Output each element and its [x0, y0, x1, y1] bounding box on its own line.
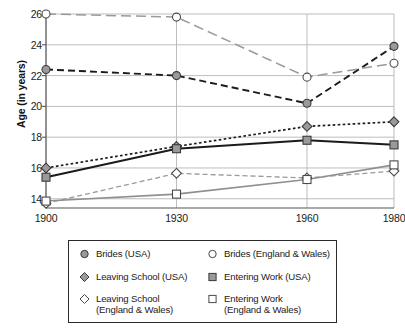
- x-tick-label: 1900: [35, 212, 58, 224]
- data-point-marker: [303, 176, 311, 184]
- data-point-marker: [42, 65, 50, 73]
- x-tick-label: 1980: [383, 212, 405, 224]
- data-point-marker: [302, 122, 312, 132]
- data-point-marker: [390, 141, 398, 149]
- series-line: [46, 46, 394, 103]
- plot-area: [0, 0, 405, 230]
- x-tick-label: 1930: [165, 212, 188, 224]
- legend-label: Leaving School (England & Wales): [96, 293, 173, 316]
- legend-item[interactable]: Entering Work (England & Wales): [207, 293, 344, 322]
- data-point-marker: [173, 13, 181, 21]
- data-point-marker: [303, 136, 311, 144]
- data-point-marker: [173, 145, 181, 153]
- legend-item[interactable]: Brides (England & Wales): [207, 248, 344, 266]
- legend-item[interactable]: Brides (USA): [79, 248, 207, 266]
- series-line: [46, 165, 394, 201]
- x-tick-label: 1960: [296, 212, 319, 224]
- data-point-marker: [42, 197, 50, 205]
- legend-item[interactable]: Entering Work (USA): [207, 271, 344, 289]
- data-point-marker: [41, 163, 51, 173]
- circle-marker-icon: [207, 248, 218, 259]
- data-point-marker: [42, 173, 50, 181]
- series-line: [46, 140, 394, 177]
- legend-item[interactable]: Leaving School (England & Wales): [79, 293, 207, 322]
- diamond-marker-icon: [79, 293, 90, 304]
- data-point-marker: [389, 117, 399, 127]
- data-point-marker: [303, 99, 311, 107]
- square-marker-icon: [207, 271, 218, 282]
- chart-legend: Brides (USA)Brides (England & Wales)Leav…: [68, 240, 337, 323]
- series-line: [46, 14, 394, 77]
- diamond-marker-icon: [79, 271, 90, 282]
- data-point-marker: [173, 190, 181, 198]
- legend-label: Brides (England & Wales): [224, 248, 330, 259]
- legend-label: Leaving School (USA): [96, 271, 187, 282]
- legend-label: Brides (USA): [96, 248, 150, 259]
- legend-label: Entering Work (England & Wales): [224, 293, 301, 316]
- data-point-marker: [42, 10, 50, 18]
- data-point-marker: [303, 73, 311, 81]
- data-point-marker: [390, 42, 398, 50]
- legend-item[interactable]: Leaving School (USA): [79, 271, 207, 289]
- data-point-marker: [173, 72, 181, 80]
- legend-label: Entering Work (USA): [224, 271, 311, 282]
- square-marker-icon: [207, 293, 218, 304]
- series-line: [46, 122, 394, 168]
- circle-marker-icon: [79, 248, 90, 259]
- data-point-marker: [390, 59, 398, 67]
- chart-container: Age (in years) 14161820222426 1900193019…: [0, 0, 405, 333]
- data-point-marker: [172, 168, 182, 178]
- data-point-marker: [390, 161, 398, 169]
